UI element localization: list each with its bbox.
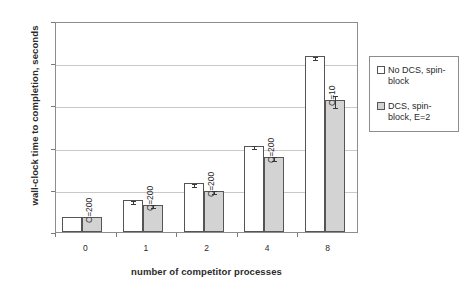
bar[interactable]	[264, 157, 284, 232]
bar-annotation: C=200	[206, 171, 216, 196]
x-axis-tick-mark	[116, 233, 117, 237]
bar[interactable]	[123, 200, 143, 232]
x-axis-tick-mark	[297, 233, 298, 237]
legend-item-label: No DCS, spin-block	[388, 65, 452, 87]
error-bar-cap	[131, 204, 136, 205]
error-bar-cap	[192, 187, 197, 188]
bar-annotation: C=200	[145, 185, 155, 210]
x-axis-title: number of competitor processes	[55, 266, 358, 277]
bar-annotation: C=10	[327, 85, 337, 106]
x-axis-tick-label: 8	[308, 243, 348, 253]
x-axis-tick-label: 0	[65, 243, 105, 253]
bar[interactable]	[244, 146, 264, 232]
x-axis-tick-mark	[176, 233, 177, 237]
error-bar-cap	[313, 57, 318, 58]
legend: No DCS, spin-block DCS, spin-block, E=2	[369, 56, 459, 132]
plot-area: C=200C=200C=200C=200C=10	[55, 22, 358, 233]
error-bar-cap	[252, 149, 257, 150]
error-bar-cap	[192, 184, 197, 185]
x-axis-tick-label: 4	[247, 243, 287, 253]
legend-item-label: DCS, spin-block, E=2	[388, 101, 452, 123]
x-axis-tick-mark	[237, 233, 238, 237]
legend-item[interactable]: DCS, spin-block, E=2	[377, 101, 452, 123]
error-bar-cap	[333, 108, 338, 109]
gray-dotted-square-icon	[377, 102, 385, 110]
x-axis-tick-label: 1	[126, 243, 166, 253]
bar-annotation: C=200	[266, 138, 276, 163]
error-bar-cap	[313, 60, 318, 61]
bar[interactable]	[62, 217, 82, 232]
error-bar-cap	[131, 201, 136, 202]
bar[interactable]	[184, 183, 204, 232]
white-square-icon	[377, 66, 385, 74]
bar-annotation: C=200	[84, 198, 94, 223]
legend-item[interactable]: No DCS, spin-block	[377, 65, 452, 87]
bar[interactable]	[305, 56, 325, 232]
error-bar-cap	[252, 146, 257, 147]
bar-chart-figure: wall-clock time to completion, seconds 0…	[0, 0, 468, 289]
bar[interactable]	[325, 100, 345, 232]
y-axis-title: wall-clock time to completion, seconds	[29, 16, 40, 216]
x-axis-tick-mark	[55, 233, 56, 237]
x-axis-tick-label: 2	[187, 243, 227, 253]
